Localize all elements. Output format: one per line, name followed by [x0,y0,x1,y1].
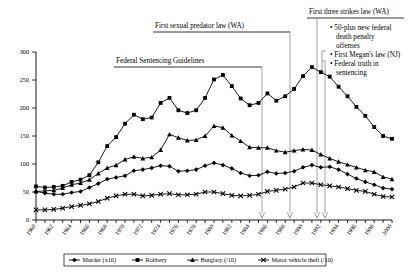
marker-square [319,70,323,74]
marker-square [257,101,261,105]
annotation-first-sexual-predator-law: First sexual predator law (WA) [155,22,245,30]
marker-square [114,135,118,139]
annotation-federal-sentencing-guidelines: Federal Sentencing Guidelines [116,57,204,65]
marker-diamond [158,163,163,168]
marker-diamond [247,173,252,178]
marker-diamond [301,165,306,170]
x-tick-label: 1990 [292,223,304,236]
marker-diamond [132,168,137,173]
series-markers [34,161,395,197]
marker-triangle [87,177,92,181]
marker-square [248,103,252,107]
y-tick-label: 0 [26,216,29,223]
marker-square [328,75,332,79]
annotation-arrow-4-arrowhead [322,213,327,219]
marker-diamond [381,186,386,191]
y-axis-ticks: 050100150200250300 [20,48,36,223]
marker-triangle [327,156,332,160]
marker-square [230,84,234,88]
x-tick-label: 1978 [185,223,197,236]
marker-square [355,105,359,109]
x-tick-label: 1986 [256,223,268,236]
marker-diamond [96,181,101,186]
marker-diamond [167,164,172,169]
marker-square [381,134,385,138]
marker-diamond [123,173,128,178]
x-tick-label: 1970 [114,223,126,236]
x-tick-label: 1996 [345,223,357,236]
chart-legend: Murder (x10)RobberyBurglary (/10)Motor v… [64,254,333,266]
marker-triangle [96,171,101,175]
series-markers [34,181,394,212]
marker-diamond [363,180,368,185]
marker-triangle [167,132,172,136]
marker-square [194,108,198,112]
marker-diamond [310,163,315,168]
marker-square [150,116,154,120]
marker-square [96,160,100,164]
series-0 [34,161,395,197]
x-tick-label: 1992 [310,223,322,236]
x-tick-label: 1968 [96,223,108,236]
marker-triangle [114,163,119,167]
marker-triangle [381,174,386,178]
x-tick-label: 1988 [274,223,286,236]
marker-diamond [176,169,181,174]
marker-diamond [69,190,74,195]
marker-triangle [132,154,137,158]
x-tick-label: 1972 [132,223,144,236]
x-tick-label: 1980 [203,223,215,236]
series-layer [34,65,395,212]
marker-square [141,117,145,121]
annotation-bullet-line-4: • Federal truth in [330,60,379,68]
y-tick-label: 200 [20,104,29,111]
marker-diamond [114,175,119,180]
crime-rates-line-chart: Federal Sentencing GuidelinesFirst sexua… [0,0,420,280]
x-tick-label: 1974 [150,223,162,236]
marker-square [239,97,243,101]
marker-diamond [292,169,297,174]
y-tick-label: 300 [20,48,29,55]
series-2 [34,124,395,194]
marker-square [185,111,189,115]
annotation-first-three-strikes-law: First three strikes law (WA) [309,8,389,16]
marker-diamond [149,166,154,171]
annotation-bullet-line-5: sentencing [336,69,367,77]
marker-square [390,137,394,141]
marker-square [337,85,341,89]
marker-diamond [319,165,324,170]
marker-square [363,114,367,118]
x-tick-label: 1964 [61,223,73,236]
marker-square [292,87,296,91]
marker-diamond [354,176,359,181]
y-tick-label: 100 [20,160,29,167]
x-tick-label: 1976 [167,223,179,236]
marker-square [105,144,109,148]
marker-square [168,96,172,100]
marker-diamond [141,167,146,172]
marker-square [123,122,127,126]
x-tick-label: 1960 [25,223,37,236]
y-tick-label: 250 [20,76,29,83]
series-markers [34,124,395,194]
legend-label: Robbery [146,256,168,263]
marker-square [372,125,376,129]
marker-diamond [283,171,288,176]
chart-svg: Federal Sentencing GuidelinesFirst sexua… [0,0,420,280]
marker-diamond [221,163,226,168]
marker-diamond [212,161,217,166]
marker-square [132,113,136,117]
marker-square [274,99,278,103]
legend-label: Burglary (/10) [201,256,236,264]
marker-triangle [212,124,217,128]
marker-square [212,78,216,82]
marker-diamond [60,192,65,197]
marker-diamond [372,182,377,187]
marker-diamond [327,165,332,170]
marker-diamond [256,173,261,178]
marker-diamond [87,185,92,190]
series-3 [34,181,394,212]
marker-diamond [185,168,190,173]
x-tick-label: 2000 [381,223,393,236]
legend-label: Murder (x10) [83,256,117,264]
